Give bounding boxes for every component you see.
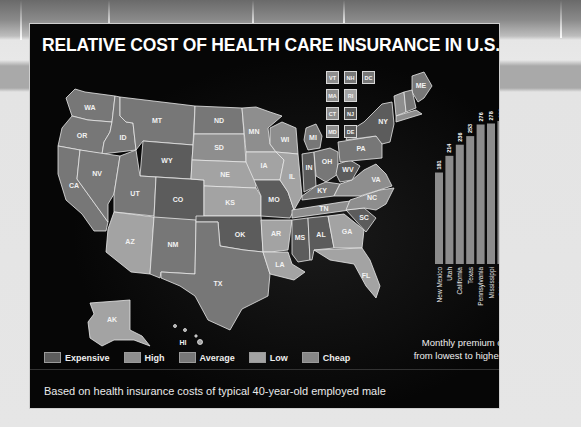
legend-label: Cheap [323, 353, 351, 363]
bar-value-label: 214 [446, 143, 452, 153]
bar-category-label: California [456, 267, 463, 295]
bar-value-label: 278 [488, 111, 494, 120]
footnote: Based on health insurance costs of typic… [44, 385, 386, 397]
divider [30, 369, 499, 370]
bar-category-label: Pennsylvania [477, 267, 485, 306]
legend-item-average: Average [179, 352, 235, 363]
bar-oklahoma [497, 121, 500, 264]
bar-value-label: 236 [457, 133, 463, 142]
chart-caption: Monthly premium costs, from lowest to hi… [412, 337, 500, 362]
infographic-panel: RELATIVE COST OF HEALTH CARE INSURANCE I… [29, 23, 500, 409]
bar-pennsylvania [477, 124, 485, 264]
chart-caption-line2: from lowest to highest (in $) [412, 350, 500, 363]
bar-category-label: New Mexico [436, 267, 443, 303]
legend-label: Average [200, 353, 235, 363]
legend-swatch [302, 352, 319, 363]
background-spike [560, 0, 562, 38]
bar-new-mexico [435, 173, 443, 264]
bar-category-label: Utah [446, 267, 453, 281]
legend: ExpensiveHighAverageLowCheap [44, 352, 364, 363]
bar-mississippi [487, 123, 495, 264]
legend-item-cheap: Cheap [302, 352, 351, 363]
legend-label: High [145, 353, 165, 363]
bar-utah [445, 156, 453, 264]
bar-texas [466, 136, 474, 264]
bar-category-label: Oklahoma [498, 267, 500, 297]
legend-swatch [44, 352, 61, 363]
bar-category-label: Mississippi [488, 267, 496, 298]
legend-item-high: High [124, 352, 165, 363]
legend-item-expensive: Expensive [44, 352, 110, 363]
legend-item-low: Low [249, 352, 288, 363]
legend-label: Expensive [65, 353, 110, 363]
bar-california [456, 145, 464, 264]
bar-value-label: 181 [436, 160, 442, 169]
bar-value-label: 253 [467, 124, 473, 133]
legend-swatch [249, 352, 266, 363]
background-spike [20, 0, 22, 40]
legend-swatch [124, 352, 141, 363]
bar-value-label: 283 [498, 109, 500, 118]
legend-label: Low [270, 353, 288, 363]
bar-value-label: 276 [478, 112, 484, 121]
legend-swatch [179, 352, 196, 363]
bar-category-label: Texas [467, 266, 474, 284]
premium-bar-chart: 181New Mexico214Utah236California253Texa… [30, 24, 500, 354]
chart-caption-line1: Monthly premium costs, [412, 337, 500, 350]
